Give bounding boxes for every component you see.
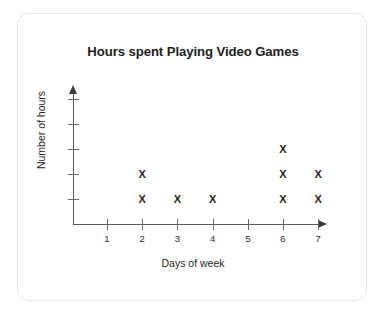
chart-card: Hours spent Playing Video Games 1234567 …: [17, 13, 367, 301]
x-axis-tick-label: 5: [236, 233, 260, 244]
x-axis-tick: [142, 219, 143, 230]
y-axis-line: [73, 93, 74, 225]
data-point-x-marker: X: [274, 167, 292, 181]
plot-area: 1234567 XXXXXXXXX Days of week Number of…: [18, 14, 368, 302]
y-axis-title: Number of hours: [35, 60, 47, 200]
x-axis-tick-label: 2: [130, 233, 154, 244]
x-axis-title: Days of week: [18, 257, 368, 269]
x-axis-tick-label: 3: [165, 233, 189, 244]
data-point-x-marker: X: [133, 192, 151, 206]
data-point-x-marker: X: [133, 167, 151, 181]
x-axis-tick: [248, 219, 249, 230]
x-axis-tick: [283, 219, 284, 230]
x-axis-tick-label: 6: [271, 233, 295, 244]
y-axis-arrow-icon: [69, 85, 77, 94]
y-axis-tick: [68, 199, 79, 200]
x-axis-tick: [107, 219, 108, 230]
x-axis-tick: [177, 219, 178, 230]
x-axis-tick: [318, 219, 319, 230]
data-point-x-marker: X: [274, 192, 292, 206]
x-axis-tick-label: 7: [306, 233, 330, 244]
data-point-x-marker: X: [204, 192, 222, 206]
y-axis-tick: [68, 174, 79, 175]
data-point-x-marker: X: [168, 192, 186, 206]
y-axis-tick: [68, 124, 79, 125]
data-point-x-marker: X: [309, 167, 327, 181]
x-axis-tick-label: 1: [95, 233, 119, 244]
data-point-x-marker: X: [309, 192, 327, 206]
page-root: Hours spent Playing Video Games 1234567 …: [0, 0, 384, 318]
x-axis-tick: [213, 219, 214, 230]
x-axis-tick-label: 4: [201, 233, 225, 244]
y-axis-tick: [68, 99, 79, 100]
x-axis-arrow-icon: [318, 220, 327, 228]
data-point-x-marker: X: [274, 142, 292, 156]
y-axis-tick: [68, 149, 79, 150]
